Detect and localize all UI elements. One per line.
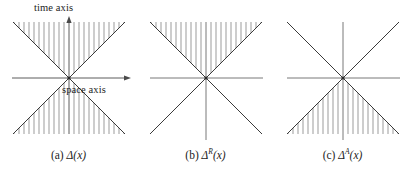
time-axis-label: time axis	[34, 2, 73, 13]
caption-argument-c: (x)	[350, 149, 363, 161]
space-axis-label: space axis	[62, 84, 106, 95]
panel-c-advanced-propagator: (c) ΔA(x)	[274, 0, 411, 171]
caption-index-a: (a)	[51, 149, 64, 161]
panel-a-full-commutator: time axis space axis (a) Δ(x)	[0, 0, 137, 171]
time-axis-arrowhead-a	[66, 16, 71, 23]
panel-b-diagram	[137, 0, 274, 148]
light-cone-figure: time axis space axis (a) Δ(x)	[0, 0, 412, 171]
caption-index-b: (b)	[185, 149, 198, 161]
caption-panel-c: (c) ΔA(x)	[274, 148, 411, 162]
origin-point-a	[67, 76, 70, 79]
caption-index-c: (c)	[323, 149, 336, 161]
caption-argument-a: (x)	[73, 149, 86, 161]
caption-symbol-c: Δ	[338, 149, 345, 161]
panel-a-diagram	[0, 0, 137, 148]
origin-point-b	[204, 76, 207, 79]
panel-b-retarded-propagator: (b) ΔR(x)	[137, 0, 274, 171]
origin-point-c	[341, 76, 344, 79]
caption-panel-a: (a) Δ(x)	[0, 148, 137, 162]
space-axis-arrowhead-a	[124, 75, 131, 80]
panel-c-diagram	[274, 0, 411, 148]
caption-argument-b: (x)	[213, 149, 226, 161]
caption-panel-b: (b) ΔR(x)	[137, 148, 274, 162]
